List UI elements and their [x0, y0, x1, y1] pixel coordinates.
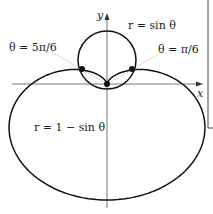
- angle-label-pi6: θ = π/6: [158, 44, 199, 55]
- y-axis-arrow-icon: [105, 13, 110, 20]
- intersection-point-origin: [104, 81, 110, 87]
- polar-diagram: [0, 0, 213, 214]
- frame-border: [208, 0, 213, 128]
- circle-equation-label: r = sin θ: [128, 20, 176, 31]
- intersection-point-5pi6: [79, 66, 85, 72]
- y-axis-label: y: [97, 10, 103, 21]
- cardioid-equation-label: r = 1 − sin θ: [34, 122, 105, 133]
- intersection-point-pi6: [129, 66, 135, 72]
- angle-label-5pi6: θ = 5π/6: [9, 42, 57, 53]
- x-axis-label: x: [197, 88, 203, 99]
- x-axis-arrow-icon: [196, 82, 203, 87]
